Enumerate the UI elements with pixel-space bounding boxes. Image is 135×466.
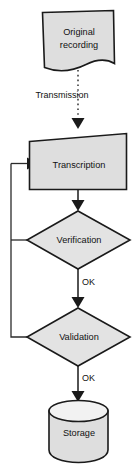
- node-verification: Verification: [27, 211, 130, 269]
- node-storage-label: Storage: [63, 428, 95, 438]
- edge-transcription-verification: [72, 190, 85, 212]
- node-storage: Storage: [49, 401, 108, 463]
- edge-transmission: Transmission: [35, 70, 88, 129]
- edge-verification-validation-label: OK: [82, 277, 95, 287]
- node-validation-label: Validation: [59, 332, 99, 342]
- node-verification-label: Verification: [57, 235, 102, 245]
- edge-verification-validation: OK: [72, 269, 96, 308]
- edge-validation-storage-label: OK: [82, 373, 95, 383]
- node-original-recording-label-line1: Original: [63, 27, 95, 37]
- node-original-recording: Original recording: [43, 11, 115, 71]
- flowchart-canvas: Original recording Transmission Transcri…: [0, 0, 135, 466]
- edge-validation-feedback: [11, 164, 28, 338]
- edge-validation-storage: OK: [72, 366, 96, 402]
- edge-transmission-label: Transmission: [35, 90, 88, 100]
- node-transcription: Transcription: [30, 134, 127, 190]
- flowchart-diagram: Original recording Transmission Transcri…: [0, 0, 135, 466]
- node-transcription-label: Transcription: [53, 160, 106, 170]
- node-original-recording-label-line2: recording: [60, 40, 98, 50]
- node-validation: Validation: [27, 308, 130, 366]
